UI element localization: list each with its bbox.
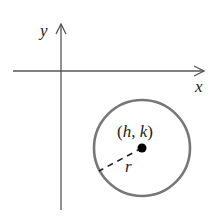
center-point [138,144,147,153]
y-axis-label: y [38,21,48,40]
circle-diagram: y x (h, k) r [0,0,220,217]
center-label: (h, k) [117,122,153,141]
x-axis-label: x [194,77,203,96]
radius-label: r [125,157,132,176]
radius-line [99,148,142,171]
